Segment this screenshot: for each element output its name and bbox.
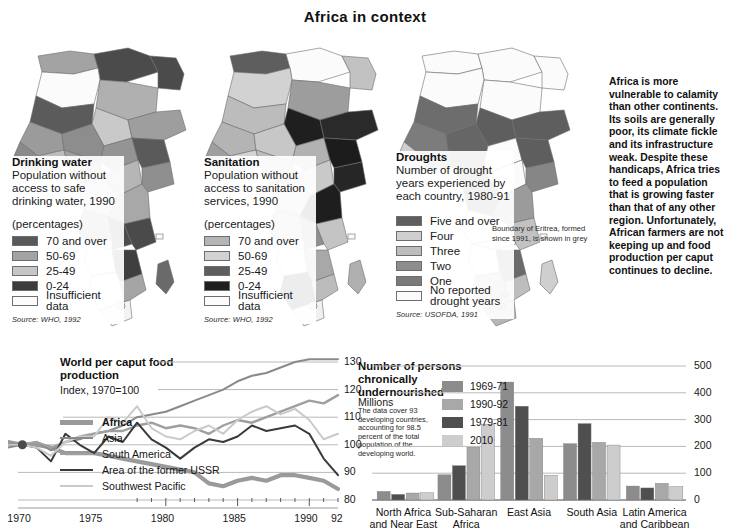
- legend-swatch: [12, 296, 38, 306]
- y-tick-label: 300: [694, 413, 712, 425]
- legend-swatch: [204, 236, 230, 246]
- legend-line-swatch: [60, 420, 93, 425]
- map-panel-droughts: Droughts Number of drought years experie…: [392, 38, 607, 343]
- legend-label: Five and over: [430, 216, 500, 227]
- map-title-droughts: Droughts: [396, 151, 514, 164]
- legend-item: 25-49: [12, 265, 124, 278]
- legend-swatch: [396, 246, 422, 256]
- legend-line-swatch: [60, 437, 93, 439]
- legend-swatch: [12, 236, 38, 246]
- legend-swatch: [204, 266, 230, 276]
- x-tick-label: 1980: [151, 512, 174, 524]
- y-tick-label: 80: [344, 493, 356, 505]
- legend-item: 2010: [442, 432, 546, 449]
- map-subtitle-droughts: Number of drought years experienced by e…: [396, 164, 514, 204]
- map-title-drinking-water: Drinking water: [12, 156, 124, 169]
- line-chart-legend: Africa Asia South America Area of the fo…: [60, 414, 220, 494]
- legend-swatch: [204, 281, 230, 291]
- y-tick-label: 100: [694, 466, 712, 478]
- legend-item: 70 and over: [204, 235, 316, 248]
- map-title-sanitation: Sanitation: [204, 156, 316, 169]
- map-source-sanitation: Source: WHO, 1992: [204, 315, 316, 324]
- legend-swatch: [396, 276, 422, 286]
- legend-label: Insufficient data: [46, 290, 124, 312]
- legend-swatch: [12, 266, 38, 276]
- legend-swatch: [204, 296, 230, 306]
- legend-swatch: [204, 251, 230, 261]
- legend-line-swatch: [60, 469, 93, 471]
- legend-label: Africa: [102, 417, 132, 428]
- page-title: Africa in context: [0, 8, 730, 25]
- legend-label: 70 and over: [46, 236, 107, 247]
- map-unit-drinking-water: (percentages): [12, 218, 124, 231]
- map-panel-sanitation: Sanitation Population without access to …: [200, 38, 390, 338]
- category-label: Latin America and Caribbean: [617, 506, 692, 530]
- legend-label: Asia: [102, 433, 123, 444]
- y-tick-label: 500: [694, 359, 712, 371]
- x-tick-label: 1985: [223, 512, 246, 524]
- map-unit-sanitation: (percentages): [204, 218, 316, 231]
- map-source-droughts: Source: USOFDA, 1991: [396, 310, 514, 319]
- legend-swatch: [396, 291, 422, 301]
- legend-swatch: [442, 435, 463, 446]
- x-tick-label: 1990: [294, 512, 317, 524]
- legend-label: No reported drought years: [430, 285, 514, 307]
- map-subtitle-sanitation: Population without access to sanitation …: [204, 169, 316, 209]
- legend-item: Asia: [60, 430, 220, 446]
- legend-swatch: [12, 251, 38, 261]
- legend-label: Area of the former USSR: [102, 465, 220, 476]
- y-tick-label: 0: [694, 493, 700, 505]
- legend-item: 1990-92: [442, 396, 546, 413]
- map-source-drinking-water: Source: WHO, 1992: [12, 315, 124, 324]
- y-tick-label: 90: [344, 465, 356, 477]
- legend-item: 1979-81: [442, 414, 546, 431]
- legend-swatch: [442, 381, 463, 392]
- legend-item: Two: [396, 260, 514, 273]
- y-tick-label: 200: [694, 439, 712, 451]
- x-tick-label: 1970: [7, 512, 30, 524]
- legend-label: Four: [430, 231, 454, 242]
- legend-label: 25-49: [238, 266, 267, 277]
- y-tick-label: 400: [694, 386, 712, 398]
- legend-label: 1979-81: [470, 417, 508, 428]
- legend-label: 25-49: [46, 266, 75, 277]
- map-subtitle-drinking-water: Population without access to safe drinki…: [12, 169, 124, 209]
- legend-swatch: [396, 261, 422, 271]
- bar-chart-legend: 1969-71 1990-92 1979-81 2010: [442, 378, 652, 450]
- eritrea-note: Boundary of Eritrea, formed since 1991, …: [492, 224, 604, 243]
- legend-item: 1969-71: [442, 378, 546, 395]
- legend-line-swatch: [60, 485, 93, 487]
- legend-label: 1969-71: [470, 381, 508, 392]
- bar-chart-undernourished: Number of persons chronically undernouri…: [356, 352, 730, 530]
- legend-item: South America: [60, 446, 220, 462]
- legend-swatch: [442, 399, 463, 410]
- legend-label: Insufficient data: [238, 290, 316, 312]
- legend-item: 50-69: [204, 250, 316, 263]
- legend-label: 50-69: [46, 251, 75, 262]
- x-tick-label: 92: [331, 512, 343, 524]
- legend-label: 2010: [470, 435, 493, 446]
- map-legend-sanitation: 70 and over 50-69 25-49 0-24 Insufficien…: [204, 235, 316, 308]
- legend-swatch: [396, 231, 422, 241]
- legend-swatch: [396, 216, 422, 226]
- legend-label: 1990-92: [470, 399, 508, 410]
- legend-item: Southwest Pacific: [60, 478, 220, 494]
- legend-item: 25-49: [204, 265, 316, 278]
- legend-item: Insufficient data: [12, 295, 124, 308]
- map-legend-drinking-water: 70 and over 50-69 25-49 0-24 Insufficien…: [12, 235, 124, 308]
- legend-item: Africa: [60, 414, 220, 430]
- legend-swatch: [442, 417, 463, 428]
- legend-item: Area of the former USSR: [60, 462, 220, 478]
- line-chart-world-food-production: World per caput food production Index, 1…: [8, 352, 356, 530]
- legend-label: South America: [102, 449, 171, 460]
- x-tick-label: 1975: [79, 512, 102, 524]
- legend-label: Southwest Pacific: [102, 481, 186, 492]
- infographic-page: Africa in context: [0, 0, 730, 530]
- commentary-text: Africa is more vulnerable to calamity th…: [609, 76, 725, 278]
- legend-swatch: [12, 281, 38, 291]
- legend-line-swatch: [60, 453, 93, 456]
- legend-label: 50-69: [238, 251, 267, 262]
- map-panel-drinking-water: Drinking water Population without access…: [8, 38, 198, 338]
- legend-item: No reported drought years: [396, 290, 514, 303]
- legend-item: Insufficient data: [204, 295, 316, 308]
